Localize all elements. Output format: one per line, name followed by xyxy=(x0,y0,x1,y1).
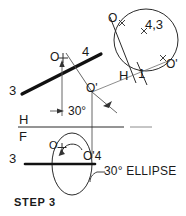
label-angle-dimension-30: 30° xyxy=(68,105,86,117)
label-top-view-line-4: 4 xyxy=(82,45,89,58)
label-auxiliary-point-o-prime: O' xyxy=(166,58,178,70)
point-marker-front-view-o xyxy=(58,143,67,152)
drawing-caption-step: STEP 3 xyxy=(14,197,56,208)
label-30-degree-ellipse-annotation: 30° ELLIPSE xyxy=(104,165,176,177)
label-top-view-point-o: O xyxy=(50,51,59,63)
arrowhead-angle-left xyxy=(57,108,64,113)
label-fold-h1-h: H xyxy=(119,69,128,82)
label-auxiliary-center-4-3: 4,3 xyxy=(145,18,163,31)
label-front-view-point-o: O xyxy=(49,140,58,151)
label-top-view-line-3: 3 xyxy=(9,84,16,97)
angle-witness-line xyxy=(92,92,117,113)
label-fold-line-h: H xyxy=(19,113,28,126)
label-top-view-point-o-prime: O' xyxy=(86,82,98,94)
label-fold-line-f: F xyxy=(19,130,27,143)
technical-drawing-svg xyxy=(0,0,186,216)
point-marker-auxiliary-o xyxy=(119,20,125,26)
label-fold-h1-1: 1 xyxy=(138,67,145,80)
drawing-canvas-root: O 4,3 O' H 1 3 4 O O' 30° H F 3 O O'4 30… xyxy=(0,0,186,216)
label-front-view-point-o-prime-4: O'4 xyxy=(83,150,101,162)
projector-o-prime-to-auxiliary xyxy=(92,61,168,92)
label-front-view-line-3: 3 xyxy=(9,152,16,165)
label-auxiliary-point-o: O xyxy=(108,12,117,24)
arrowhead-up-to-o xyxy=(59,60,64,67)
